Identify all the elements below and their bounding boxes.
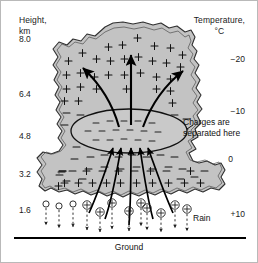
height-tick-4-8: 4.8 bbox=[19, 131, 31, 141]
height-tick-8-0: 8.0 bbox=[19, 34, 31, 44]
height-tick-1-6: 1.6 bbox=[19, 205, 31, 215]
height-tick-3-2: 3.2 bbox=[19, 169, 31, 179]
charge-separation-callout: Charges are separated here bbox=[183, 117, 240, 139]
temp-tick-plus-10: +10 bbox=[231, 209, 245, 219]
ground-label: Ground bbox=[1, 242, 257, 253]
positive-raindrops bbox=[83, 199, 191, 232]
height-axis-title: Height, km bbox=[19, 15, 47, 36]
height-tick-6-4: 6.4 bbox=[19, 89, 31, 99]
thunderstorm-charge-diagram: Height, km Temperature, °C 8.0 6.4 4.8 3… bbox=[0, 0, 258, 263]
temp-tick-minus-10: −10 bbox=[231, 106, 245, 116]
temperature-axis-title: Temperature, °C bbox=[194, 15, 245, 36]
temp-tick-zero: 0 bbox=[228, 154, 233, 164]
temp-tick-minus-20: −20 bbox=[231, 54, 245, 64]
rain-label: Rain bbox=[193, 213, 210, 224]
charge-separation-ellipse bbox=[71, 109, 187, 153]
